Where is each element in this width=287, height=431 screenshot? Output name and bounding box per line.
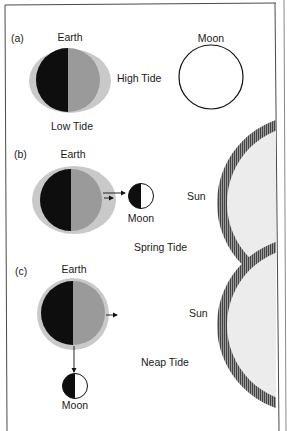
moon-label: Moon <box>128 212 154 224</box>
panel-a-tag: (a) <box>11 32 24 44</box>
tides-diagram: (a) Earth High Tide Low Tide Moon (b) Ea… <box>0 0 287 431</box>
sun-c <box>217 237 287 413</box>
earth-label: Earth <box>57 31 82 43</box>
earth-label: Earth <box>60 148 85 160</box>
neap-tide-label: Neap Tide <box>141 356 189 368</box>
panel-a: (a) Earth High Tide Low Tide Moon <box>11 31 243 132</box>
panel-b: (b) Earth Moon Sun Spring Tide <box>14 148 206 253</box>
moon-label: Moon <box>198 32 224 44</box>
sun-label: Sun <box>189 307 208 319</box>
moon-icon <box>179 45 243 109</box>
sun-label: Sun <box>187 190 206 202</box>
panel-c-tag: (c) <box>15 265 27 277</box>
moon-label: Moon <box>62 399 88 411</box>
earth-icon <box>29 48 111 113</box>
panel-c: (c) Earth Moon Sun Neap Tide <box>15 263 208 411</box>
earth-icon <box>32 166 116 234</box>
earth-label: Earth <box>61 263 86 275</box>
high-tide-label: High Tide <box>117 72 162 84</box>
panel-b-tag: (b) <box>14 148 27 160</box>
spring-tide-label: Spring Tide <box>134 241 187 253</box>
moon-icon <box>129 184 154 209</box>
moon-icon <box>63 374 88 399</box>
low-tide-label: Low Tide <box>51 120 93 132</box>
earth-icon <box>37 278 109 350</box>
